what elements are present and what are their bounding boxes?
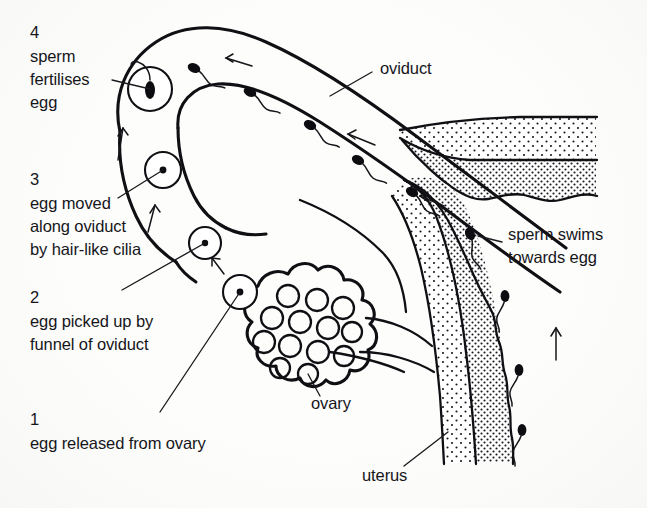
step-label-1: 1 egg released from ovary: [30, 410, 206, 452]
fertilisation-diagram: 4 sperm fertilises egg 3 egg moved along…: [0, 0, 647, 508]
arrow-egg-up-3: [212, 258, 224, 274]
step-3-line-2: along oviduct: [30, 217, 126, 235]
step-3-number: 3: [30, 170, 39, 188]
label-sperm-swims-towards-egg: sperm swims towards egg: [508, 225, 603, 266]
leader-step-1: [160, 292, 240, 412]
arrow-egg-up-2: [148, 205, 160, 232]
step-1-number: 1: [30, 410, 39, 428]
step-3-line-1: egg moved: [30, 194, 111, 212]
egg-fertilised: [128, 61, 172, 111]
step-4-line-2: fertilises: [30, 70, 90, 88]
step-4-number: 4: [30, 23, 39, 41]
label-sperm-line-1: sperm swims: [508, 225, 603, 243]
uterus-cavity: [300, 200, 406, 372]
step-2-number: 2: [30, 288, 39, 306]
leader-uterus: [404, 432, 448, 466]
diagram-page: 4 sperm fertilises egg 3 egg moved along…: [0, 0, 647, 508]
step-1-line-1: egg released from ovary: [30, 434, 206, 452]
step-4-line-3: egg: [30, 93, 57, 111]
arrow-sperm-up-uterus: [551, 328, 561, 360]
sperm-oviduct-4: [348, 153, 392, 185]
step-2-line-2: funnel of oviduct: [30, 335, 149, 353]
step-2-line-1: egg picked up by: [30, 312, 154, 330]
ovary-organ: [245, 264, 435, 387]
step-3-line-3: by hair-like cilia: [30, 240, 142, 258]
leader-oviduct: [330, 72, 372, 96]
uterus-body: [380, 170, 535, 470]
sperm-vagina-1: [510, 364, 524, 406]
sperm-uterus-1: [496, 290, 511, 332]
step-label-4: 4 sperm fertilises egg: [30, 23, 90, 111]
label-ovary: ovary: [311, 394, 352, 412]
step-label-2: 2 egg picked up by funnel of oviduct: [30, 288, 154, 353]
label-uterus: uterus: [362, 466, 407, 484]
label-sperm-line-2: towards egg: [508, 248, 597, 266]
step-4-line-1: sperm: [30, 47, 75, 65]
label-oviduct: oviduct: [380, 59, 432, 77]
sperm-vagina-2: [513, 424, 527, 466]
arrow-oviduct-flow-1: [226, 54, 252, 66]
